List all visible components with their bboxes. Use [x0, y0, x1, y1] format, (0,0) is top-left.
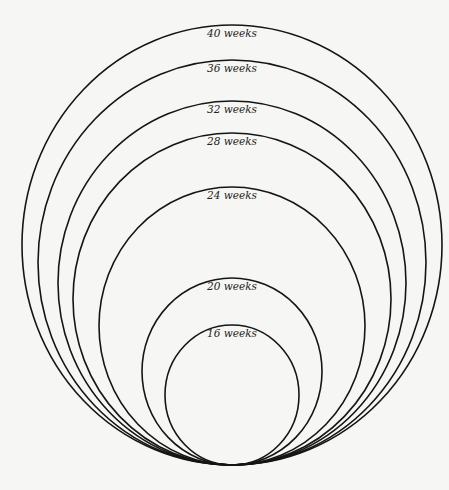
ring-36-weeks [38, 60, 426, 465]
ring-28-weeks [73, 133, 391, 465]
ring-24-weeks [99, 187, 365, 465]
ring-40-weeks [22, 25, 442, 465]
ring-label: 40 weeks [206, 27, 257, 39]
ring-label: 16 weeks [207, 327, 257, 339]
ring-label: 28 weeks [206, 135, 257, 147]
ring-label: 20 weeks [206, 280, 257, 292]
nested-circles-diagram: 40 weeks36 weeks32 weeks28 weeks24 weeks… [0, 0, 449, 490]
ring-label: 24 weeks [206, 189, 257, 201]
ring-label: 32 weeks [207, 103, 257, 115]
ring-16-weeks [165, 325, 299, 465]
uterus-growth-diagram: 40 weeks36 weeks32 weeks28 weeks24 weeks… [0, 0, 449, 490]
ring-label: 36 weeks [207, 62, 257, 74]
